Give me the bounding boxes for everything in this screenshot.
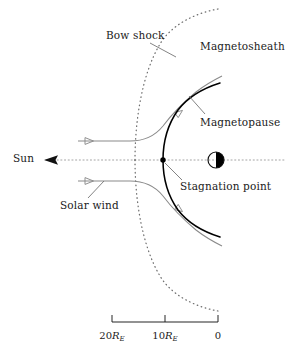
scale-label-0-value: 0 [215, 330, 221, 341]
scale-label-10re-value: 10 [152, 330, 165, 341]
leader-stagnation-point [165, 163, 182, 180]
leader-solar-wind [88, 181, 104, 198]
label-magnetosheath: Magnetosheath [200, 41, 285, 52]
scale-label-20re-unit: R [112, 330, 120, 341]
label-stagnation-point: Stagnation point [180, 181, 271, 192]
scale-label-10re-unit: R [165, 330, 173, 341]
magnetopause-curve-lower [163, 160, 220, 237]
scale-label-10re: 10RE [141, 331, 189, 341]
scale-label-10re-sub: E [173, 335, 178, 343]
stagnation-point-marker [160, 157, 165, 162]
label-bow-shock: Bow shock [106, 30, 164, 41]
earth-icon [208, 152, 224, 168]
leader-bow-shock [150, 43, 176, 57]
scale-label-20re-value: 20 [99, 330, 112, 341]
scale-bar [112, 315, 218, 322]
label-magnetopause: Magnetopause [200, 117, 280, 128]
scale-label-20re: 20RE [88, 331, 136, 341]
leader-magnetopause [189, 96, 205, 114]
scale-label-20re-sub: E [120, 335, 125, 343]
diagram-canvas [0, 0, 286, 354]
scale-label-0: 0 [194, 331, 242, 341]
label-solar-wind: Solar wind [60, 200, 119, 211]
sun-arrow-icon [44, 155, 58, 165]
label-sun: Sun [13, 153, 34, 164]
magnetosphere-diagram: Bow shock Magnetosheath Magnetopause Sun… [0, 0, 286, 354]
